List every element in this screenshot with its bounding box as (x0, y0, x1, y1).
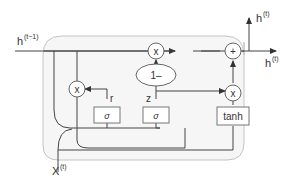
sigma-r-gate: σ (94, 107, 120, 123)
svg-text:x: x (231, 88, 236, 99)
svg-text:h: h (17, 35, 23, 47)
svg-text:x: x (154, 46, 159, 57)
gru-diagram: x x + x 1– σ σ tanh r z h (t−1) h (t) h (0, 0, 291, 185)
svg-text:(t): (t) (263, 10, 270, 18)
mult-r-node: x (69, 81, 85, 97)
svg-text:h: h (256, 12, 262, 24)
h-prev-label: h (t−1) (17, 33, 39, 47)
x-input-label: X (t) (52, 163, 67, 177)
h-out-up-label: h (t) (256, 10, 270, 24)
one-minus-node: 1– (136, 64, 176, 86)
z-label: z (146, 93, 151, 104)
svg-text:(t−1): (t−1) (24, 33, 39, 41)
svg-text:(t): (t) (60, 163, 67, 171)
svg-text:x: x (75, 84, 80, 95)
sigma-z-gate: σ (143, 107, 169, 123)
svg-text:tanh: tanh (223, 111, 242, 122)
add-node: + (225, 43, 241, 59)
mult-top-node: x (148, 43, 164, 59)
svg-text:X: X (52, 165, 60, 177)
svg-text:+: + (230, 46, 236, 57)
svg-text:1–: 1– (150, 70, 162, 81)
svg-text:σ: σ (104, 111, 110, 121)
cell-boundary (43, 36, 244, 160)
mult-tanh-node: x (225, 85, 241, 101)
h-out-right-label: h (t) (265, 55, 279, 69)
tanh-gate: tanh (217, 107, 249, 125)
svg-text:σ: σ (153, 111, 159, 121)
svg-text:(t): (t) (272, 55, 279, 63)
svg-text:h: h (265, 57, 271, 69)
